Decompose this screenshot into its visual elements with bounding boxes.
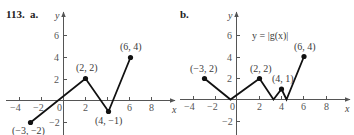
figure: 113. a. y x −4 −2 0 2 6 8 6 4 2 xyxy=(0,0,354,135)
x-tick-label: 8 xyxy=(149,102,154,113)
point-marker xyxy=(202,76,207,81)
x-tick-label: 2 xyxy=(83,102,88,113)
point-label: (−3, 2) xyxy=(190,63,217,75)
x-tick-label: 6 xyxy=(127,102,132,113)
y-axis-label: y xyxy=(227,10,233,21)
point-label: (6, 4) xyxy=(294,41,316,53)
x-tick-label: 2 xyxy=(257,101,262,112)
x-tick-label: −4 xyxy=(184,101,195,112)
x-tick-label: −2 xyxy=(33,102,44,113)
point-marker xyxy=(83,76,88,81)
point-label: (6, 4) xyxy=(120,41,142,53)
point-marker xyxy=(301,54,306,59)
part-a-label: a. xyxy=(30,8,39,20)
point-label: (4, −1) xyxy=(95,115,122,127)
x-tick-label: 8 xyxy=(324,101,329,112)
problem-number: 113. xyxy=(6,8,25,20)
y-tick-label: 4 xyxy=(54,52,59,63)
x-tick-label: 4 xyxy=(279,101,284,112)
equation-label: y = |g(x)| xyxy=(252,30,288,42)
y-tick-label: 4 xyxy=(227,52,232,63)
y-tick-label: −2 xyxy=(49,117,60,128)
y-tick-label: 2 xyxy=(54,74,59,85)
y-tick-label: −2 xyxy=(222,116,233,127)
x-tick-label: −4 xyxy=(10,102,21,113)
y-axis-label: y xyxy=(54,10,60,21)
point-label: (2, 2) xyxy=(250,63,272,75)
point-marker xyxy=(128,55,133,60)
point-label: (2, 2) xyxy=(76,62,98,74)
point-marker xyxy=(279,86,284,91)
y-tick-label: 6 xyxy=(227,30,232,41)
x-tick-label: 0 xyxy=(230,101,235,112)
graph-a: 113. a. y x −4 −2 0 2 6 8 6 4 2 xyxy=(6,8,177,135)
x-tick-label: 6 xyxy=(301,101,306,112)
point-marker xyxy=(106,109,111,114)
x-tick-label: −2 xyxy=(207,101,218,112)
x-tick-label: 0 xyxy=(57,102,62,113)
point-label: (4, 1) xyxy=(272,73,294,85)
x-axis-label: x xyxy=(171,104,177,115)
y-tick-label: 2 xyxy=(227,73,232,84)
point-marker xyxy=(257,76,262,81)
x-axis-label: x xyxy=(344,103,350,114)
part-b-label: b. xyxy=(180,8,189,20)
point-label: (−3, −2) xyxy=(12,125,45,135)
graph-b: b. y x y = |g(x)| −4 −2 0 2 4 6 8 6 xyxy=(180,8,350,135)
y-tick-label: 6 xyxy=(54,30,59,41)
